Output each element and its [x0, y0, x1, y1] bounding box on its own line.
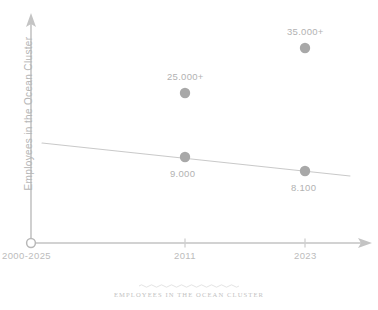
data-label-35000: 35.000+ [287, 26, 324, 37]
data-label-9000: 9.000 [170, 168, 195, 179]
wavy-divider-icon [139, 282, 239, 289]
data-point-dot[interactable] [300, 166, 310, 176]
chart-canvas [0, 0, 378, 310]
chart-figure: Employees in the Ocean Cluster 35.000+ 2… [0, 0, 378, 310]
y-axis-title: Employees in the Ocean Cluster [23, 19, 34, 209]
data-point-dot[interactable] [180, 152, 190, 162]
data-point-dot[interactable] [180, 88, 190, 98]
data-label-25000: 25.000+ [167, 71, 204, 82]
x-tick-label-2023: 2023 [294, 250, 317, 261]
origin-marker-icon [27, 239, 36, 248]
x-tick-label-2000-2025: 2000-2025 [2, 250, 51, 261]
x-tick-label-2011: 2011 [174, 250, 196, 261]
data-point-dot[interactable] [300, 43, 310, 53]
figure-caption: EMPLOYEES IN THE OCEAN CLUSTER [0, 291, 378, 298]
data-label-8100: 8.100 [291, 182, 316, 193]
